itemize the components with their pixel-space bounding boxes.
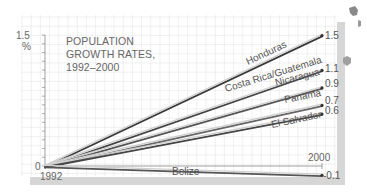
series-label-belize: Belize [172, 166, 200, 177]
title-line-2: GROWTH RATES, [66, 48, 155, 60]
y-unit-label: % [22, 41, 31, 52]
end-label-belize: -0.1 [323, 170, 341, 181]
title-line-1: POPULATION [66, 35, 134, 47]
y-tick-max-label: 1.5 [16, 30, 30, 41]
end-label-nicaragua: 0.9 [325, 78, 339, 89]
x-tick-start-label: 1992 [40, 171, 63, 182]
population-growth-chart: POPULATION GROWTH RATES, 1992–2000 1.5 %… [0, 0, 367, 194]
end-label-costa-rica-guatemala: 1.1 [325, 63, 339, 74]
x-tick-end-label: 2000 [308, 152, 331, 163]
end-label-honduras: 1.5 [325, 30, 339, 41]
end-label-el-salvador: 0.6 [325, 105, 339, 116]
map-fragment-icon [343, 6, 361, 66]
title-line-3: 1992–2000 [66, 61, 120, 73]
chart-canvas: POPULATION GROWTH RATES, 1992–2000 1.5 %… [0, 0, 367, 194]
